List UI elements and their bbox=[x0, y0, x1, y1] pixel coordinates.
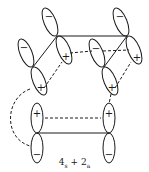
svg-text:−: − bbox=[45, 11, 53, 22]
overlap-C-E-arc bbox=[10, 89, 30, 146]
svg-text:+: + bbox=[108, 82, 116, 93]
svg-text:+: + bbox=[105, 108, 113, 119]
svg-text:+: + bbox=[133, 52, 141, 63]
svg-text:−: − bbox=[116, 11, 124, 22]
orbital-D: − + bbox=[86, 37, 121, 97]
orbital-diagram: − + − + − + − + + − + − bbox=[0, 0, 149, 172]
overlap-D-F bbox=[109, 94, 111, 104]
bond-B-D bbox=[104, 36, 127, 67]
svg-text:−: − bbox=[92, 43, 100, 54]
svg-text:+: + bbox=[62, 51, 70, 62]
caption: 4s + 2a bbox=[0, 157, 149, 169]
bond-A-C bbox=[33, 36, 57, 67]
svg-text:−: − bbox=[20, 42, 28, 53]
orbital-C: − + bbox=[15, 37, 50, 97]
svg-text:+: + bbox=[33, 108, 41, 119]
overlap-A-D bbox=[70, 51, 92, 53]
svg-text:+: + bbox=[37, 82, 45, 93]
